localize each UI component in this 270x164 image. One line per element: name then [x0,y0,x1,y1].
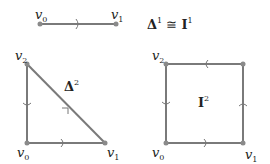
edge-v2-v1 [27,64,105,143]
one-simplex: v0 v1 [35,7,123,29]
label-delta2: Δ2 [64,78,79,94]
label-v0: v0 [17,145,29,162]
vertex-corner [241,62,246,67]
diagram-canvas: v0 v1 Δ1 ≅ I1 v2 v0 v1 Δ2 v2 v0 v1 I2 [0,0,270,164]
label-v2: v2 [15,48,27,65]
two-cube: v2 v0 v1 I2 [152,48,257,164]
label-v1: v1 [245,147,257,164]
vertex-v1 [241,141,246,146]
vertex-v0 [164,141,169,146]
label-i2: I2 [198,94,209,110]
equation-delta1-iso-i1: Δ1 ≅ I1 [147,16,193,32]
arrow-up-left-icon [62,108,68,114]
square-edges [166,64,243,143]
label-v2: v2 [152,48,164,65]
label-v1: v1 [107,145,119,162]
vertex-v0 [25,141,30,146]
label-v0: v0 [152,145,164,162]
label-v0: v0 [35,7,47,24]
two-simplex: v2 v0 v1 Δ2 [15,48,119,162]
label-v1: v1 [111,7,123,24]
